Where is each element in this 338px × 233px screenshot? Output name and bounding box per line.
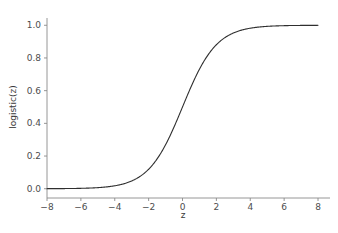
x-tick-label: 6: [281, 203, 287, 212]
x-tick-label: −8: [40, 203, 53, 212]
x-tick-label: 8: [315, 203, 321, 212]
x-tick-label: 2: [214, 203, 220, 212]
axis-spines: [47, 18, 330, 198]
x-tick-label: −6: [74, 203, 87, 212]
logistic-function-figure: −8−6−4−202468 0.00.20.40.60.81.0 z logis…: [0, 0, 338, 233]
x-tick-label: 4: [247, 203, 253, 212]
x-axis-label: z: [181, 211, 186, 220]
y-tick-label: 0.2: [0, 152, 41, 161]
y-axis-label: logistic(z): [9, 85, 18, 129]
logistic-curve-line: [47, 25, 318, 188]
y-tick-label: 0.6: [0, 86, 41, 95]
y-tick-label: 0.0: [0, 184, 41, 193]
x-tick-label: −4: [108, 203, 121, 212]
plot-canvas: [0, 0, 338, 233]
x-tick-label: −2: [142, 203, 155, 212]
y-tick-label: 0.8: [0, 53, 41, 62]
y-tick-label: 0.4: [0, 119, 41, 128]
y-tick-label: 1.0: [0, 21, 41, 30]
